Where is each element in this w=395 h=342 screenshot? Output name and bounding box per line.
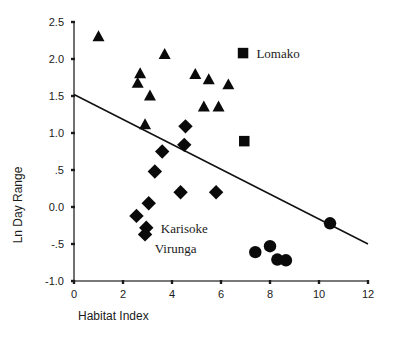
point-annotations-layer: LomakoKarisokeVirunga (155, 46, 300, 256)
data-point-circle (264, 240, 276, 252)
x-tick-label: 2 (120, 288, 126, 300)
x-tick-label: 10 (313, 288, 325, 300)
data-point-diamond (178, 119, 192, 133)
data-point-triangle (213, 101, 225, 112)
data-point-triangle (93, 30, 105, 41)
x-tick-label: 0 (71, 288, 77, 300)
data-point-triangle (139, 118, 151, 129)
y-tick-label: 2.0 (49, 53, 64, 65)
y-tick-label: 1.0 (49, 127, 64, 139)
data-point-triangle (222, 78, 234, 89)
series-circles (249, 217, 336, 266)
data-point-diamond (209, 185, 223, 199)
x-tick-label: 4 (169, 288, 175, 300)
y-tick-label: 0.0 (49, 201, 64, 213)
x-tick-label: 6 (218, 288, 224, 300)
data-point-diamond (155, 144, 169, 158)
y-tick-label: -1.0 (45, 275, 64, 287)
chart-canvas: 2.52.01.51.0.50.0-.5-1.0 024681012 Lomak… (0, 0, 395, 342)
y-axis-tick-labels: 2.52.01.51.0.50.0-.5-1.0 (45, 16, 64, 287)
annotation-virunga: Virunga (155, 241, 197, 256)
data-point-triangle (198, 101, 210, 112)
x-axis-title: Habitat Index (78, 309, 149, 323)
y-tick-label: 2.5 (49, 16, 64, 28)
series-squares (238, 48, 250, 147)
data-point-diamond (173, 185, 187, 199)
scatter-chart: 2.52.01.51.0.50.0-.5-1.0 024681012 Lomak… (0, 0, 395, 342)
data-point-diamond (129, 209, 143, 223)
data-point-triangle (144, 89, 156, 100)
annotation-karisoke: Karisoke (161, 221, 208, 236)
data-point-diamond (142, 196, 156, 210)
data-point-circle (280, 254, 292, 266)
y-axis-title: Ln Day Range (11, 166, 25, 243)
data-point-triangle (132, 77, 144, 88)
x-axis-tick-labels: 024681012 (71, 288, 374, 300)
data-point-square (238, 48, 249, 59)
y-tick-label: 1.5 (49, 90, 64, 102)
data-point-diamond (177, 138, 191, 152)
data-point-triangle (134, 67, 146, 78)
data-point-circle (249, 246, 261, 258)
data-point-diamond (148, 164, 162, 178)
annotation-lomako: Lomako (256, 46, 299, 61)
y-tick-label: -.5 (51, 238, 64, 250)
data-point-triangle (159, 48, 171, 59)
axes (74, 22, 368, 281)
x-tick-label: 12 (362, 288, 374, 300)
data-point-triangle (189, 68, 201, 79)
data-points-layer (93, 30, 337, 266)
regression-line (74, 95, 368, 244)
data-point-triangle (203, 73, 215, 84)
x-tick-label: 8 (267, 288, 273, 300)
data-point-circle (324, 217, 336, 229)
data-point-square (239, 136, 250, 147)
y-tick-label: .5 (55, 164, 64, 176)
